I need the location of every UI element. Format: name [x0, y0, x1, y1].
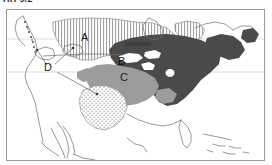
map-page: HH 9/2	[0, 0, 272, 165]
region-label-b: B	[118, 56, 125, 67]
north-america-map-svg	[7, 10, 264, 160]
caption-strip: HH 9/2	[0, 0, 272, 7]
region-label-c: C	[120, 72, 128, 83]
caption-text: HH 9/2	[3, 0, 33, 4]
map-figure-frame: A B C D	[6, 9, 265, 161]
region-label-a: A	[81, 32, 88, 43]
region-label-d: D	[44, 62, 52, 73]
